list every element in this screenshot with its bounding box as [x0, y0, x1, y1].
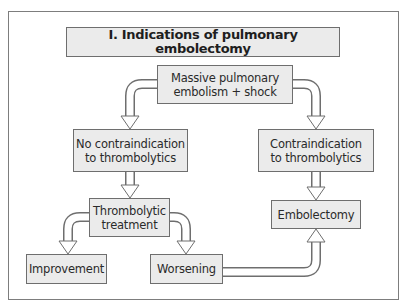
- node-no-contraindication: No contraindication to thrombolytics: [73, 129, 188, 172]
- node-text-line: to thrombolytics: [270, 151, 362, 165]
- node-text-line: No contraindication: [76, 137, 185, 151]
- arrow-no-contraindication-to-thrombolytic: [121, 170, 139, 198]
- node-text-line: treatment: [93, 218, 166, 232]
- node-text: Embolectomy: [278, 208, 355, 222]
- node-contraindication: Contraindication to thrombolytics: [258, 129, 374, 172]
- arrow-worsening-to-embolectomy: [221, 229, 325, 272]
- arrow-contraindication-to-embolectomy: [307, 170, 325, 200]
- arrow-thrombolytic-to-improvement: [59, 217, 91, 254]
- node-text: Improvement: [29, 262, 104, 276]
- arrow-start-to-contraindication: [290, 84, 325, 129]
- node-text-line: Contraindication: [270, 137, 362, 151]
- diagram-title: I. Indications of pulmonary embolectomy: [66, 27, 340, 57]
- node-embolectomy: Embolectomy: [271, 200, 361, 229]
- node-text-line: Massive pulmonary: [171, 71, 279, 85]
- node-improvement: Improvement: [26, 254, 107, 284]
- node-text-line: embolism + shock: [171, 85, 279, 99]
- arrow-start-to-no-contraindication: [121, 84, 159, 129]
- arrow-thrombolytic-to-worsening: [168, 217, 195, 254]
- node-text-line: to thrombolytics: [76, 151, 185, 165]
- node-massive-pulmonary-embolism: Massive pulmonary embolism + shock: [157, 65, 293, 104]
- node-text-line: Thrombolytic: [93, 204, 166, 218]
- diagram-title-text: I. Indications of pulmonary embolectomy: [67, 28, 339, 56]
- node-text: Worsening: [157, 262, 216, 276]
- node-worsening: Worsening: [150, 254, 223, 284]
- node-thrombolytic-treatment: Thrombolytic treatment: [89, 198, 170, 237]
